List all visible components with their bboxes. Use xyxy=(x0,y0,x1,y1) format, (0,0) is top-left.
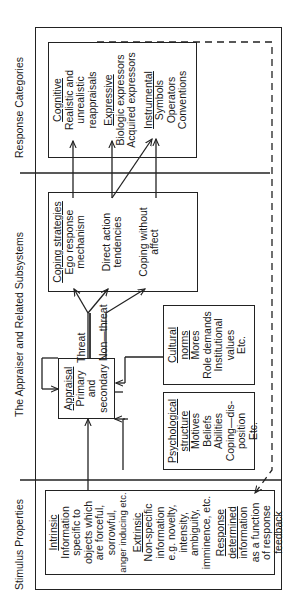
coping-process-diagram: Stimulus Properties The Appraiser and Re… xyxy=(0,0,299,613)
connector-lines xyxy=(0,0,299,613)
